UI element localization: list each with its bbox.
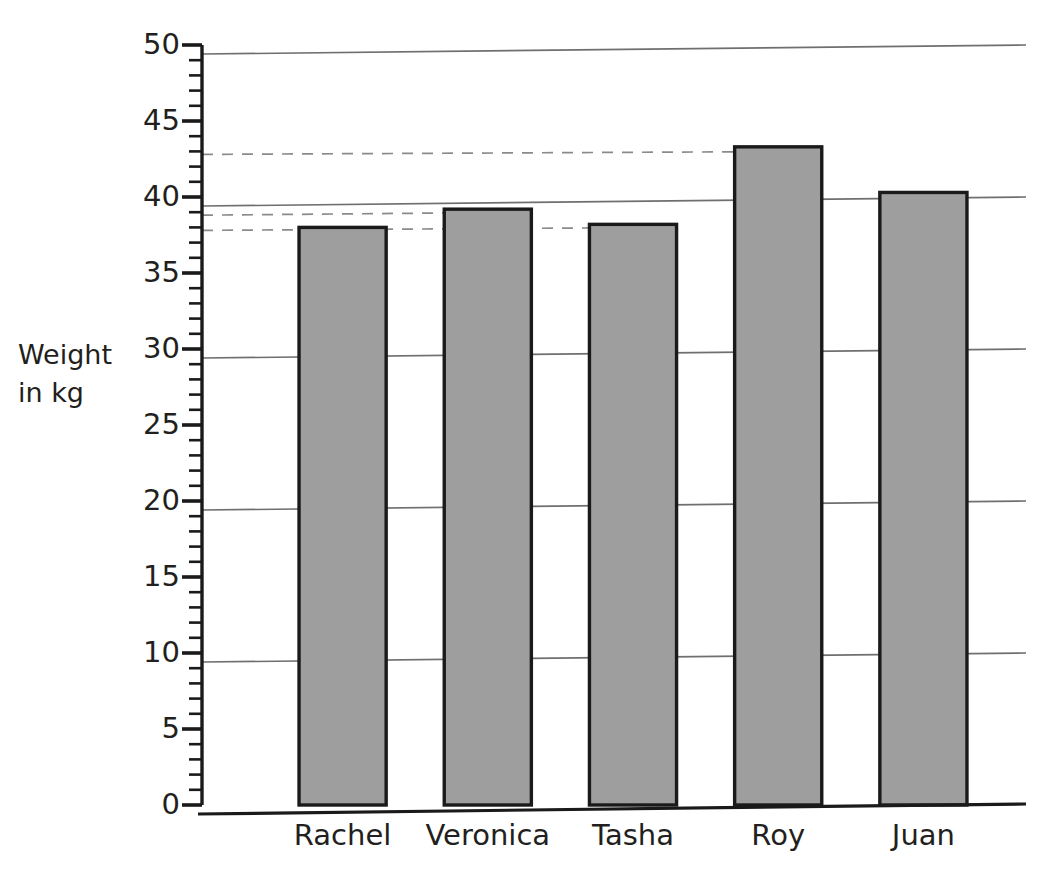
plot-area: [196, 40, 1026, 810]
y-axis-tick-label: 5: [108, 714, 180, 743]
x-axis-category-labels: RachelVeronicaTashaRoyJuan: [196, 818, 1026, 864]
dashed-guide-line: [202, 151, 822, 154]
y-axis-tick-labels: 50454035302520151050: [104, 40, 180, 810]
y-axis-tick-label: 40: [108, 182, 180, 211]
plot-svg: [196, 40, 1026, 810]
y-axis-tick-label: 35: [108, 258, 180, 287]
bar[interactable]: [735, 147, 822, 805]
y-axis-tick-label: 20: [108, 486, 180, 515]
x-axis-category-label: Juan: [823, 818, 1023, 852]
bar-chart: Weight in kg 50454035302520151050 Rachel…: [0, 0, 1040, 872]
bar[interactable]: [589, 224, 676, 805]
y-axis-tick-label: 25: [108, 410, 180, 439]
y-axis-tick-label: 30: [108, 334, 180, 363]
y-axis-tick-label: 15: [108, 562, 180, 591]
bar[interactable]: [880, 192, 967, 805]
y-axis-tick-label: 50: [108, 30, 180, 59]
bar[interactable]: [444, 209, 531, 805]
chart-title: [130, 0, 930, 4]
gridline-major: [202, 45, 1026, 54]
y-axis-tick-label: 10: [108, 638, 180, 667]
bar[interactable]: [299, 227, 386, 805]
y-axis-tick-label: 0: [108, 790, 180, 819]
y-axis-tick-label: 45: [108, 106, 180, 135]
